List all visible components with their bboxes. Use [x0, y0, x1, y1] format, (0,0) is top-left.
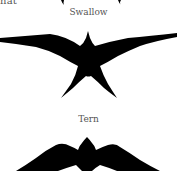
tern-silhouette-icon	[0, 0, 177, 171]
